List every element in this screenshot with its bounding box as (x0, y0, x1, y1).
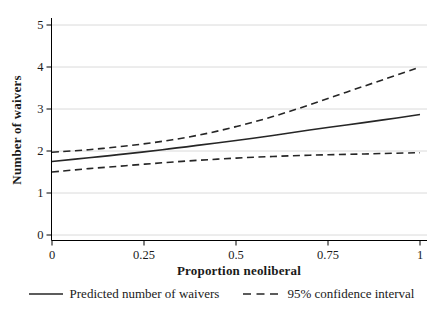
x-tick-label: 0.25 (133, 248, 155, 262)
y-tick-label: 2 (37, 144, 43, 158)
legend-label-ci: 95% confidence interval (287, 286, 414, 302)
x-axis-title: Proportion neoliberal (51, 263, 427, 279)
legend: Predicted number of waivers 95% confiden… (0, 286, 443, 302)
y-tick-label: 0 (37, 228, 43, 242)
x-tick-label: 0.5 (228, 248, 244, 262)
y-tick-label: 1 (37, 186, 43, 200)
legend-item-ci: 95% confidence interval (243, 286, 414, 302)
y-tick-label: 3 (37, 102, 43, 116)
dashed-line-swatch-icon (243, 290, 280, 298)
chart-figure: 01234500.250.50.751 Number of waivers Pr… (0, 0, 443, 315)
legend-item-predicted: Predicted number of waivers (29, 286, 220, 302)
x-tick-label: 0.75 (317, 248, 339, 262)
y-axis-title: Number of waivers (9, 50, 25, 210)
x-tick-label: 1 (417, 248, 423, 262)
solid-line-swatch-icon (29, 290, 63, 298)
series-line-1-dashed (52, 67, 420, 152)
y-tick-label: 5 (37, 18, 43, 32)
legend-label-predicted: Predicted number of waivers (70, 286, 220, 302)
x-tick-label: 0 (49, 248, 55, 262)
y-tick-label: 4 (37, 60, 44, 74)
